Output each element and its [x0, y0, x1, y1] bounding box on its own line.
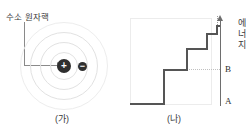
step-tread-level-a: [130, 103, 164, 105]
caption-panel-b: (나): [124, 112, 224, 125]
axis-title-char-3: 지: [236, 40, 247, 51]
step-riser-3-to-4: [206, 33, 208, 50]
axis-title-char-1: 에: [236, 18, 247, 29]
energy-level-label-b: B: [225, 64, 231, 74]
electron-icon: −: [78, 62, 87, 71]
physics-figure: 수소 원자핵 + − (가): [0, 0, 248, 136]
energy-axis-title: 에 너 지: [236, 18, 247, 51]
hydrogen-nucleus-icon: +: [57, 59, 71, 73]
energy-axis-line: [220, 20, 221, 106]
energy-axis-arrow-icon: [217, 15, 223, 21]
step-tread-level-3: [186, 48, 208, 50]
step-riser-b-to-3: [186, 48, 188, 71]
plot-area: [130, 18, 212, 105]
axis-title-char-2: 너: [236, 29, 247, 40]
step-riser-a-to-b: [163, 69, 165, 105]
step-tread-level-b: [163, 69, 188, 71]
energy-level-label-a: A: [225, 96, 232, 106]
nucleus-annotation-label: 수소 원자핵: [6, 10, 50, 22]
caption-panel-a: (가): [0, 112, 124, 125]
